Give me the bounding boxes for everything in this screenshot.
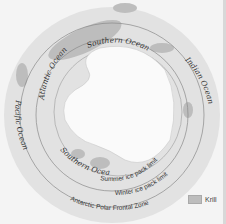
page-edge: [223, 0, 226, 224]
krill-swatch: [188, 195, 202, 204]
map-graphic: Atlantic Ocean Southern Ocean Indian Oce…: [0, 0, 226, 224]
legend: Krill: [188, 195, 217, 204]
legend-krill-label: Krill: [205, 196, 217, 203]
antarctic-krill-map: Atlantic Ocean Southern Ocean Indian Oce…: [0, 0, 226, 224]
